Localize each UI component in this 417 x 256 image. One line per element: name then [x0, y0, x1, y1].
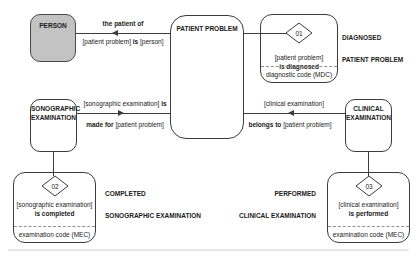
diamond-01-icon: 01	[285, 22, 313, 44]
patient-of-label-below: [patient problem] is [person]	[83, 38, 164, 46]
person-entity-label: PERSON	[31, 21, 75, 30]
person-entity: PERSON	[30, 14, 76, 62]
examination-code-footer-02: examination code (MEC)	[14, 226, 95, 242]
performed-verb-text: is performed	[349, 210, 388, 219]
clinical-examination-label-line2: EXAMINATION	[346, 113, 391, 122]
made-for-label-above: [sonographic examination] is	[83, 100, 166, 108]
sonographic-examination-label-line1: SONOGRAPHIC	[31, 104, 76, 113]
diagnosed-patient-problem-title: DIAGNOSED PATIENT PROBLEM	[342, 21, 403, 76]
connector-patient-problem-diagnosed	[244, 33, 287, 34]
svg-text:03: 03	[365, 183, 373, 190]
svg-text:02: 02	[51, 183, 59, 190]
scan-artifact-line	[8, 249, 409, 251]
diamond-03-icon: 03	[355, 175, 383, 197]
connector-sonographic-completed	[53, 152, 54, 176]
arrowhead-right-icon	[118, 110, 124, 116]
patient-of-label-above: the patient of	[103, 20, 144, 28]
diagnosed-object-text: [patient problem]	[275, 54, 323, 63]
performed-clinical-examination-box: 03 [clinical examination] is performed e…	[327, 172, 410, 243]
sonographic-examination-entity: SONOGRAPHIC EXAMINATION	[30, 99, 77, 152]
connector-clinical-performed	[368, 152, 369, 176]
belongs-to-label-above: [clinical examination]	[264, 100, 324, 108]
completed-sonographic-examination-box: 02 [sonographic examination] is complete…	[13, 172, 96, 243]
arrowhead-left-icon	[112, 30, 118, 36]
performed-clinical-examination-title: PERFORMED CLINICAL EXAMINATION	[180, 177, 316, 232]
examination-code-footer-03: examination code (MEC)	[328, 226, 409, 242]
completed-object-text: [sonographic examination]	[17, 201, 93, 210]
performed-object-text: [clinical examination]	[339, 201, 399, 210]
patient-problem-entity: PATIENT PROBLEM	[170, 15, 244, 139]
belongs-to-label-below: belongs to [patient problem]	[248, 121, 331, 129]
diagnosed-patient-problem-box: 01 [patient problem] is diagnosed diagno…	[260, 14, 338, 83]
connector-clinical-patient-problem	[244, 113, 345, 114]
arrowhead-left-icon	[288, 110, 294, 116]
connector-person-patient-problem	[76, 33, 170, 34]
patient-problem-entity-label: PATIENT PROBLEM	[171, 24, 243, 33]
made-for-label-below: made for [patient problem]	[86, 121, 164, 129]
clinical-examination-label-line1: CLINICAL	[346, 104, 391, 113]
svg-text:01: 01	[295, 30, 303, 37]
completed-verb-text: is completed	[35, 210, 75, 219]
diamond-02-icon: 02	[41, 175, 69, 197]
diagram-canvas: PERSON PATIENT PROBLEM SONOGRAPHIC EXAMI…	[0, 0, 417, 256]
diagnostic-code-footer: diagnostic code (MDC)	[261, 66, 337, 82]
sonographic-examination-label-line2: EXAMINATION	[31, 113, 76, 122]
clinical-examination-entity: CLINICAL EXAMINATION	[345, 99, 392, 152]
